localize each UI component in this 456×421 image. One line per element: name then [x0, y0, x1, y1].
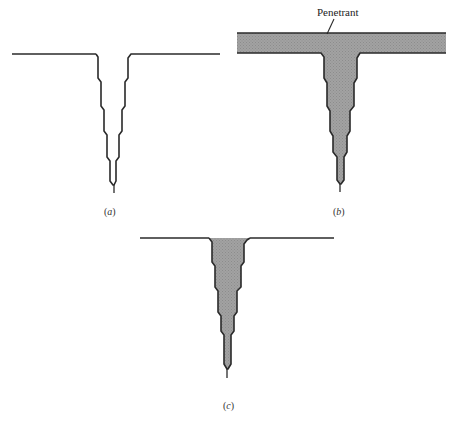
- caption-b-letter: b: [336, 206, 341, 217]
- panel-a: [12, 54, 220, 193]
- penetrant-callout-label: Penetrant: [317, 7, 359, 18]
- caption-c: (c): [223, 401, 234, 411]
- penetrant-fill: [237, 33, 446, 184]
- caption-b: (b): [333, 207, 345, 217]
- panel-c: [140, 238, 334, 378]
- caption-a-letter: a: [107, 206, 112, 217]
- callout-leader-line: [327, 19, 334, 34]
- panel-b: [237, 19, 446, 192]
- penetrant-inspection-diagram: [0, 0, 456, 421]
- caption-a: (a): [104, 207, 116, 217]
- crack-outline: [96, 54, 136, 185]
- caption-c-letter: c: [226, 400, 230, 411]
